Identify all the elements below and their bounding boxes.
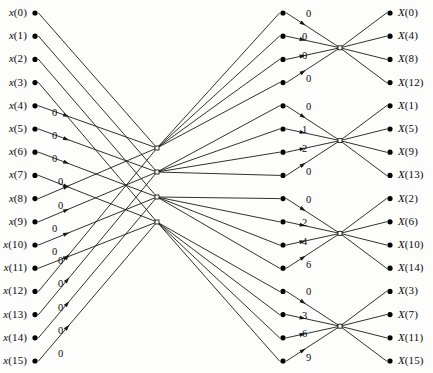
- butterfly-junction: [338, 46, 342, 50]
- stage2-twiddle-label: 3: [302, 311, 307, 322]
- stage2-arrowhead: [299, 163, 305, 168]
- output-node: [387, 10, 392, 15]
- stage2-edge-in: [287, 222, 341, 234]
- stage2-arrowhead: [299, 299, 305, 304]
- stage1-twiddle-label: 0: [58, 201, 63, 212]
- output-node: [387, 150, 392, 155]
- mid-node: [280, 266, 285, 271]
- stage1-arrowhead: [63, 113, 70, 117]
- output-node: [387, 126, 392, 131]
- mid-node: [280, 126, 285, 131]
- stage1-edge-out: [157, 222, 280, 338]
- input-node: [32, 173, 37, 178]
- stage2-edge-in: [287, 106, 341, 141]
- stage2-arrowhead: [299, 20, 305, 25]
- input-node: [32, 242, 37, 247]
- stage1-arrowhead: [63, 160, 70, 164]
- mid-node: [280, 34, 285, 39]
- stage1-arrowhead: [63, 233, 69, 237]
- output-label: X(2): [398, 193, 418, 204]
- stage1-twiddle-label: 0: [58, 256, 63, 267]
- output-node: [387, 173, 392, 178]
- input-label: x(0): [0, 7, 27, 18]
- mid-node: [280, 173, 285, 178]
- stage2-edge-out: [340, 233, 387, 268]
- stage1-edge-in: [39, 148, 158, 291]
- stage1-twiddle-label: 0: [52, 154, 57, 165]
- input-node: [32, 10, 37, 15]
- stage2-edge-in: [287, 199, 341, 234]
- mid-node: [280, 196, 285, 201]
- mid-node: [280, 103, 285, 108]
- stage2-twiddle-label: 0: [306, 9, 311, 20]
- mid-node: [280, 219, 285, 224]
- stage1-edge-out: [157, 222, 280, 315]
- stage2-edge-in: [287, 129, 341, 141]
- stage2-edge-in: [287, 141, 341, 153]
- stage1-edge-out: [157, 172, 280, 175]
- output-node: [387, 289, 392, 294]
- stage2-twiddle-label: 0: [306, 195, 311, 206]
- stage2-edge-out: [340, 106, 387, 141]
- stage2-twiddle-label: 0: [302, 32, 307, 43]
- stage2-twiddle-label: 0: [302, 51, 307, 62]
- stage2-edge-out: [340, 141, 387, 153]
- stage2-arrowhead: [299, 348, 305, 353]
- output-node: [387, 196, 392, 201]
- output-label: X(8): [398, 53, 418, 64]
- stage1-edge-out: [157, 13, 280, 148]
- stage2-twiddle-label: 0: [306, 287, 311, 298]
- stage1-edge-out: [157, 197, 280, 199]
- stage2-twiddle-label: 2: [302, 144, 307, 155]
- input-label: x(4): [0, 100, 27, 111]
- stage2-edge-in: [287, 233, 341, 245]
- stage2-edge-in: [287, 233, 341, 268]
- input-label: x(8): [0, 193, 27, 204]
- stage2-edge-out: [340, 222, 387, 234]
- input-node: [32, 289, 37, 294]
- output-node: [387, 335, 392, 340]
- input-node: [32, 335, 37, 340]
- input-node: [32, 312, 37, 317]
- stage2-edge-out: [340, 326, 387, 361]
- output-label: X(6): [398, 216, 418, 227]
- stage2-edge-in: [287, 141, 341, 176]
- output-label: X(3): [398, 285, 418, 296]
- input-label: x(3): [0, 77, 27, 88]
- output-label: X(9): [398, 146, 418, 157]
- input-label: x(1): [0, 30, 27, 41]
- input-label: x(6): [0, 146, 27, 157]
- stage1-twiddle-label: 0: [52, 247, 57, 258]
- input-label: x(7): [0, 169, 27, 180]
- stage2-twiddle-label: 6: [302, 329, 307, 340]
- stage2-edge-out: [340, 48, 387, 83]
- stage1-twiddle-label: 0: [58, 279, 63, 290]
- output-label: X(0): [398, 7, 418, 18]
- butterfly-junction: [338, 231, 342, 235]
- mid-node: [280, 242, 285, 247]
- stage1-edge-out: [157, 129, 280, 172]
- output-label: X(14): [398, 262, 424, 273]
- input-node: [32, 266, 37, 271]
- output-node: [387, 219, 392, 224]
- output-node: [387, 358, 392, 363]
- input-label: x(11): [0, 262, 27, 273]
- stage2-edge-in: [287, 48, 341, 60]
- output-label: X(7): [398, 309, 418, 320]
- stage1-twiddle-label: 0: [52, 224, 57, 235]
- stage2-twiddle-label: 1: [302, 125, 307, 136]
- crossover-hub: [155, 220, 159, 224]
- stage2-arrowhead: [299, 206, 305, 211]
- arrowhead-group: [63, 20, 306, 353]
- input-node: [32, 196, 37, 201]
- stage2-edge-in: [287, 326, 341, 361]
- stage2-edge-out: [340, 36, 387, 48]
- input-label: x(12): [0, 285, 27, 296]
- stage2-edge-in: [287, 36, 341, 48]
- edge-group: [39, 13, 387, 361]
- input-label: x(9): [0, 216, 27, 227]
- stage2-twiddle-label: 0: [306, 74, 311, 85]
- output-label: X(12): [398, 77, 424, 88]
- input-node: [32, 150, 37, 155]
- stage2-edge-out: [340, 199, 387, 234]
